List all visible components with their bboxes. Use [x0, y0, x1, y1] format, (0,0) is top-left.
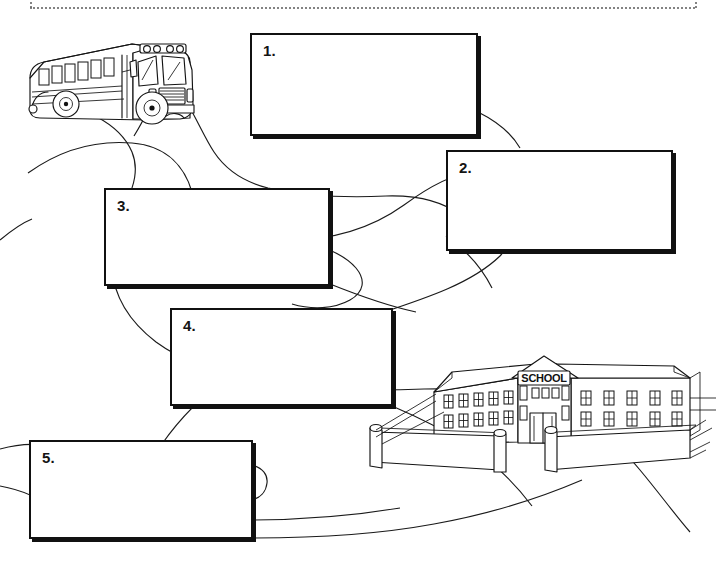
answer-box-4-number: 4. [183, 317, 196, 334]
answer-box-1[interactable]: 1. [250, 33, 478, 136]
answer-box-2-number: 2. [459, 159, 472, 176]
worksheet-page: SCHOOL [0, 0, 721, 564]
answer-box-3[interactable]: 3. [104, 188, 330, 286]
answer-box-3-number: 3. [117, 197, 130, 214]
answer-box-2[interactable]: 2. [446, 150, 673, 251]
school-building-icon: SCHOOL [370, 356, 716, 472]
answer-box-1-number: 1. [263, 42, 276, 59]
school-bus-icon [29, 44, 194, 124]
answer-box-4[interactable]: 4. [170, 308, 393, 406]
cut-line-left [30, 0, 32, 8]
answer-box-5-number: 5. [42, 449, 55, 466]
svg-text:SCHOOL: SCHOOL [521, 372, 567, 384]
cut-line-horizontal [30, 7, 695, 9]
answer-box-5[interactable]: 5. [29, 440, 253, 539]
cut-line-right [695, 0, 697, 8]
